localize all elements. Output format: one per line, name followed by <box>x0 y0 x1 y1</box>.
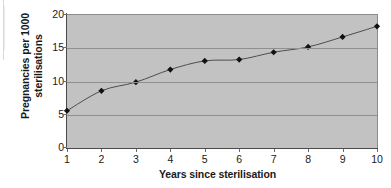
y-axis-tick-label: 0 <box>40 142 64 153</box>
y-axis-tick-label: 20 <box>40 9 64 20</box>
y-axis-tick-label: 5 <box>40 108 64 119</box>
data-point-marker <box>339 34 345 40</box>
x-axis-tick-label: 2 <box>88 153 114 165</box>
x-axis-tick-mark <box>170 149 171 152</box>
data-point-marker <box>374 23 380 29</box>
x-axis-tick-mark <box>136 149 137 152</box>
gridline <box>67 48 377 49</box>
plot-area <box>67 14 378 148</box>
x-axis-tick-label: 3 <box>123 153 149 165</box>
data-point-marker <box>202 58 208 64</box>
x-axis-tick-label: 9 <box>330 153 356 165</box>
y-axis-tick-mark <box>63 47 67 48</box>
data-point-marker <box>98 88 104 94</box>
y-axis-tick-mark <box>63 14 67 15</box>
data-point-marker <box>167 66 173 72</box>
x-axis-tick-label: 1 <box>54 153 80 165</box>
x-axis-tick-mark <box>67 149 68 152</box>
x-axis-tick-label: 4 <box>157 153 183 165</box>
y-axis-tick-mark <box>63 114 67 115</box>
y-axis-title-line-1: Pregnancies per 1000 <box>19 0 32 141</box>
x-axis-tick-label: 6 <box>226 153 252 165</box>
chart-figure: Pregnancies per 1000 sterilisations 0510… <box>0 0 391 188</box>
x-axis-tick-mark <box>205 149 206 152</box>
y-axis-tick-mark <box>63 81 67 82</box>
x-axis-tick-label: 10 <box>364 153 390 165</box>
x-axis-tick-mark <box>274 149 275 152</box>
x-axis-tick-mark <box>239 149 240 152</box>
x-axis-tick-label: 8 <box>295 153 321 165</box>
x-axis-tick-mark <box>101 149 102 152</box>
gridline <box>67 115 377 116</box>
data-point-marker <box>271 49 277 55</box>
scan-artifact-secondary <box>4 6 5 50</box>
data-point-marker <box>236 56 242 62</box>
gridline <box>67 82 377 83</box>
y-axis-tick-mark <box>63 147 67 148</box>
x-axis-tick-mark <box>343 149 344 152</box>
x-axis-tick-label: 7 <box>261 153 287 165</box>
x-axis-title: Years since sterilisation <box>0 168 391 180</box>
series-line <box>67 26 377 110</box>
x-axis-tick-mark <box>377 149 378 152</box>
x-axis-tick-mark <box>308 149 309 152</box>
y-axis-tick-label: 10 <box>40 75 64 86</box>
x-axis-tick-label: 5 <box>192 153 218 165</box>
y-axis-tick-label: 15 <box>40 42 64 53</box>
